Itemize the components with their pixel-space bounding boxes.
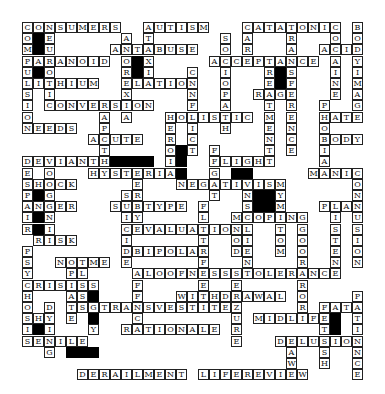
grid-cell[interactable]: I [352, 67, 363, 78]
grid-cell[interactable]: G [88, 302, 99, 313]
grid-cell[interactable]: O [330, 33, 341, 44]
grid-cell[interactable]: C [187, 67, 198, 78]
grid-cell[interactable]: A [209, 56, 220, 67]
grid-cell[interactable]: X [121, 89, 132, 100]
grid-cell[interactable]: W [176, 291, 187, 302]
grid-cell[interactable]: T [209, 190, 220, 201]
grid-cell[interactable]: E [231, 336, 242, 347]
grid-cell[interactable]: M [88, 257, 99, 268]
grid-cell[interactable]: N [176, 324, 187, 335]
grid-cell[interactable]: O [132, 100, 143, 111]
grid-cell[interactable]: N [176, 179, 187, 190]
grid-cell[interactable]: M [88, 78, 99, 89]
grid-cell[interactable]: F [308, 313, 319, 324]
grid-cell[interactable]: O [220, 224, 231, 235]
grid-cell[interactable]: M [275, 201, 286, 212]
grid-cell[interactable]: I [121, 235, 132, 246]
grid-cell[interactable]: S [264, 179, 275, 190]
grid-cell[interactable]: S [209, 112, 220, 123]
grid-cell[interactable]: I [44, 89, 55, 100]
grid-cell[interactable]: E [198, 280, 209, 291]
grid-cell[interactable]: E [165, 123, 176, 134]
grid-cell[interactable]: T [66, 302, 77, 313]
grid-cell[interactable]: S [22, 336, 33, 347]
grid-cell[interactable]: F [132, 280, 143, 291]
grid-cell[interactable]: T [220, 112, 231, 123]
grid-cell[interactable]: O [22, 112, 33, 123]
grid-cell[interactable]: O [165, 324, 176, 335]
grid-cell[interactable]: U [77, 78, 88, 89]
grid-cell[interactable]: F [187, 100, 198, 111]
grid-cell[interactable]: A [264, 89, 275, 100]
grid-cell[interactable]: D [55, 123, 66, 134]
grid-cell[interactable]: E [209, 324, 220, 335]
grid-cell[interactable]: E [253, 369, 264, 380]
grid-cell[interactable]: E [132, 179, 143, 190]
grid-cell[interactable]: G [275, 89, 286, 100]
grid-cell[interactable]: D [121, 246, 132, 257]
grid-cell[interactable]: E [330, 246, 341, 257]
grid-cell[interactable]: I [165, 78, 176, 89]
grid-cell[interactable]: S [319, 336, 330, 347]
grid-cell[interactable]: T [187, 145, 198, 156]
grid-cell[interactable]: I [66, 78, 77, 89]
grid-cell[interactable]: E [165, 302, 176, 313]
grid-cell[interactable]: A [319, 168, 330, 179]
grid-cell[interactable]: S [319, 347, 330, 358]
grid-cell[interactable]: D [352, 44, 363, 55]
grid-cell[interactable]: N [187, 268, 198, 279]
grid-cell[interactable]: E [242, 246, 253, 257]
grid-cell[interactable]: U [154, 22, 165, 33]
grid-cell[interactable]: K [66, 235, 77, 246]
grid-cell[interactable]: H [88, 168, 99, 179]
grid-cell[interactable]: R [253, 89, 264, 100]
grid-cell[interactable]: F [198, 257, 209, 268]
grid-cell[interactable]: A [121, 302, 132, 313]
grid-cell[interactable]: S [220, 33, 231, 44]
grid-cell[interactable]: O [44, 179, 55, 190]
grid-cell[interactable]: I [341, 168, 352, 179]
grid-cell[interactable]: P [99, 123, 110, 134]
grid-cell[interactable]: T [286, 22, 297, 33]
grid-cell[interactable]: R [286, 268, 297, 279]
grid-cell[interactable]: M [275, 246, 286, 257]
grid-cell[interactable]: O [77, 56, 88, 67]
grid-cell[interactable]: N [132, 302, 143, 313]
grid-cell[interactable]: H [165, 112, 176, 123]
grid-cell[interactable]: R [99, 22, 110, 33]
grid-cell[interactable]: A [242, 33, 253, 44]
grid-cell[interactable]: R [264, 67, 275, 78]
grid-cell[interactable]: M [231, 212, 242, 223]
grid-cell[interactable]: T [154, 78, 165, 89]
grid-cell[interactable]: O [341, 336, 352, 347]
grid-cell[interactable]: S [110, 201, 121, 212]
grid-cell[interactable]: E [264, 78, 275, 89]
grid-cell[interactable]: T [143, 201, 154, 212]
grid-cell[interactable]: I [121, 100, 132, 111]
grid-cell[interactable]: O [297, 291, 308, 302]
grid-cell[interactable]: T [264, 56, 275, 67]
grid-cell[interactable]: O [220, 78, 231, 89]
grid-cell[interactable]: N [330, 78, 341, 89]
grid-cell[interactable]: I [44, 280, 55, 291]
grid-cell[interactable]: T [264, 100, 275, 111]
grid-cell[interactable]: N [352, 336, 363, 347]
grid-cell[interactable]: S [22, 257, 33, 268]
grid-cell[interactable]: I [55, 336, 66, 347]
grid-cell[interactable]: Y [275, 190, 286, 201]
grid-cell[interactable]: E [286, 336, 297, 347]
grid-cell[interactable]: O [330, 134, 341, 145]
grid-cell[interactable]: A [121, 33, 132, 44]
grid-cell[interactable]: H [99, 156, 110, 167]
grid-cell[interactable]: I [33, 78, 44, 89]
grid-cell[interactable]: E [286, 369, 297, 380]
grid-cell[interactable]: T [143, 33, 154, 44]
grid-cell[interactable]: N [77, 156, 88, 167]
grid-cell[interactable]: I [209, 224, 220, 235]
grid-cell[interactable]: E [121, 257, 132, 268]
grid-cell[interactable]: S [77, 280, 88, 291]
grid-cell[interactable]: R [121, 67, 132, 78]
grid-cell[interactable]: L [187, 112, 198, 123]
grid-cell[interactable]: I [330, 212, 341, 223]
grid-cell[interactable]: S [110, 100, 121, 111]
